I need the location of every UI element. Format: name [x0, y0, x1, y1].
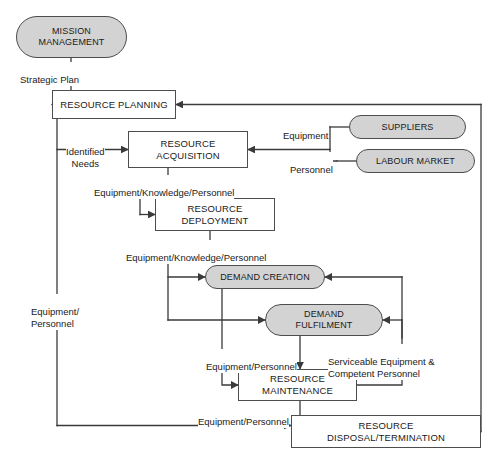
edge-label-equipment-personnel-mid: Equipment/Personnel [206, 349, 297, 373]
edge-label-personnel-text: Personnel [290, 164, 333, 175]
edge-label-equipment-knowledge-personnel-2-text: Equipment/Knowledge/Personnel [126, 252, 266, 263]
edge-label-equipment-personnel-mid-text: Equipment/Personnel [206, 361, 297, 372]
edge-label-serviceable-equipment-competent-personnel-text: Serviceable Equipment & Competent Person… [328, 356, 435, 379]
node-resource-disposal-termination[interactable]: RESOURCE DISPOSAL/TERMINATION [291, 415, 481, 448]
node-resource-acquisition-label: RESOURCE ACQUISITION [156, 138, 219, 161]
node-resource-deployment-label: RESOURCE DEPLOYMENT [182, 203, 249, 226]
node-resource-disposal-termination-label: RESOURCE DISPOSAL/TERMINATION [327, 420, 445, 443]
node-demand-creation[interactable]: DEMAND CREATION [205, 265, 325, 289]
edge-label-equipment-personnel-left: Equipment/ Personnel [31, 294, 79, 330]
edge-label-identified-needs-text: Identified Needs [66, 146, 105, 169]
edge-label-equipment-personnel-bottom-text: Equipment/Personnel [198, 416, 289, 427]
node-labour-market-label: LABOUR MARKET [376, 156, 455, 167]
node-resource-deployment[interactable]: RESOURCE DEPLOYMENT [155, 198, 275, 231]
node-suppliers[interactable]: SUPPLIERS [349, 115, 466, 139]
node-mission-management[interactable]: MISSION MANAGEMENT [16, 16, 127, 58]
edge-label-equipment: Equipment [283, 118, 328, 142]
edge-label-strategic-plan: Strategic Plan [20, 62, 79, 86]
node-resource-planning[interactable]: RESOURCE PLANNING [52, 90, 176, 119]
node-demand-fulfilment[interactable]: DEMAND FULFILMENT [265, 304, 383, 336]
edge-label-personnel: Personnel [290, 152, 333, 176]
node-resource-acquisition[interactable]: RESOURCE ACQUISITION [128, 131, 248, 168]
node-mission-management-label: MISSION MANAGEMENT [38, 26, 104, 48]
edge-label-serviceable-equipment-competent-personnel: Serviceable Equipment & Competent Person… [328, 344, 435, 380]
node-labour-market[interactable]: LABOUR MARKET [356, 149, 475, 173]
node-demand-fulfilment-label: DEMAND FULFILMENT [295, 309, 352, 331]
edge-label-strategic-plan-text: Strategic Plan [20, 74, 79, 85]
node-resource-planning-label: RESOURCE PLANNING [60, 99, 168, 111]
edge-label-equipment-personnel-left-text: Equipment/ Personnel [31, 306, 79, 329]
process-flow-diagram: MISSION MANAGEMENT RESOURCE PLANNING RES… [0, 0, 499, 468]
node-suppliers-label: SUPPLIERS [382, 122, 434, 133]
edge-label-equipment-knowledge-personnel-2: Equipment/Knowledge/Personnel [126, 240, 266, 264]
edge-label-equipment-knowledge-personnel-1-text: Equipment/Knowledge/Personnel [94, 187, 234, 198]
edge-label-equipment-knowledge-personnel-1: Equipment/Knowledge/Personnel [94, 175, 234, 199]
edge-deployment-bus-left [168, 260, 210, 320]
node-demand-creation-label: DEMAND CREATION [220, 272, 310, 283]
edge-label-identified-needs: Identified Needs [66, 134, 105, 170]
edge-label-equipment-text: Equipment [283, 130, 328, 141]
edge-label-equipment-personnel-bottom: Equipment/Personnel [198, 404, 289, 428]
node-resource-maintenance-label: RESOURCE MAINTENANCE [262, 373, 333, 396]
